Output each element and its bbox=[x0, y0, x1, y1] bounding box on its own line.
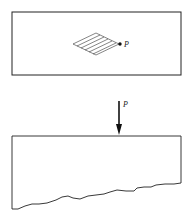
point-p-label: P bbox=[123, 40, 129, 49]
load-p-label: P bbox=[122, 100, 128, 109]
half-space-section bbox=[12, 136, 181, 209]
point-p-marker bbox=[118, 42, 121, 45]
load-arrow-icon bbox=[116, 101, 122, 135]
diagram-canvas: P P bbox=[0, 0, 190, 216]
plan-view-boundary bbox=[12, 12, 181, 75]
loaded-area-hatched bbox=[73, 33, 119, 55]
